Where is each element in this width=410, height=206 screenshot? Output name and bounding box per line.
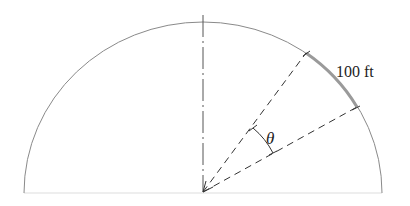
radius-line-lower (203, 107, 357, 192)
arc-segment-highlight (306, 53, 357, 107)
arc-length-label: 100 ft (336, 63, 374, 80)
semicircle-diagram: 100 ft θ (0, 0, 410, 206)
angle-tick-lower (269, 151, 277, 155)
radius-line-upper (203, 53, 306, 192)
angle-theta-label: θ (266, 129, 274, 148)
